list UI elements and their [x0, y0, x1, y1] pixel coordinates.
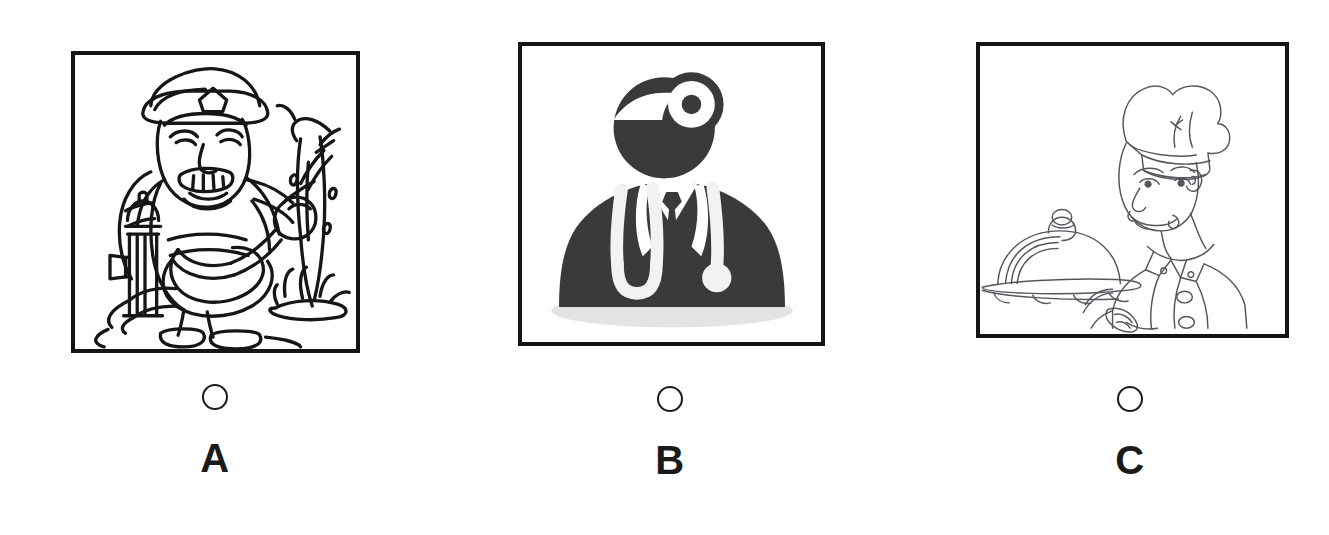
- options-row: A: [0, 0, 1329, 535]
- chef-illustration: [980, 46, 1285, 334]
- radio-option-b[interactable]: [657, 386, 683, 412]
- firefighter-illustration: [75, 55, 356, 349]
- option-letter-a: A: [200, 438, 229, 478]
- picture-choice-question: A: [0, 0, 1329, 535]
- head-mirror-center: [681, 95, 700, 114]
- picture-frame-c[interactable]: [976, 42, 1289, 338]
- option-c[interactable]: C: [950, 0, 1310, 480]
- option-a[interactable]: A: [35, 0, 395, 478]
- picture-frame-b[interactable]: [518, 42, 825, 346]
- picture-frame-a[interactable]: [71, 51, 360, 353]
- radio-option-a[interactable]: [202, 384, 228, 410]
- doctor-silhouette-illustration: [522, 46, 821, 342]
- option-letter-b: B: [655, 440, 684, 480]
- option-letter-c: C: [1115, 440, 1144, 480]
- stethoscope-chestpiece: [702, 263, 731, 292]
- radio-option-c[interactable]: [1117, 386, 1143, 412]
- option-b[interactable]: B: [490, 0, 850, 480]
